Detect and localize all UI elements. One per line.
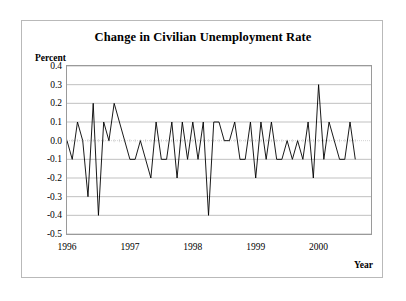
y-axis-tick-label: 0.2 (30, 98, 62, 108)
plot-wrapper: 0.40.30.20.10.0-0.1-0.2-0.3-0.4-0.5 1996… (66, 65, 372, 235)
plot-area (66, 65, 372, 235)
x-axis-tick-labels: 19961997199819992000 (66, 236, 372, 254)
x-axis-tick-label: 1999 (236, 242, 276, 252)
y-axis-tick-label: 0.0 (30, 136, 62, 146)
data-series-line (67, 85, 355, 216)
line-chart-svg (67, 66, 371, 234)
y-axis-tick-label: -0.5 (30, 229, 62, 239)
y-axis-tick-label: 0.4 (30, 61, 62, 71)
chart-title: Change in Civilian Unemployment Rate (22, 30, 384, 45)
x-axis-tick-label: 2000 (299, 242, 339, 252)
x-axis-tick-label: 1998 (173, 242, 213, 252)
chart-figure-frame: Change in Civilian Unemployment Rate Per… (21, 20, 383, 278)
y-axis-tick-label: -0.2 (30, 173, 62, 183)
x-axis-tick-label: 1996 (47, 242, 87, 252)
y-axis-tick-label: 0.1 (30, 117, 62, 127)
x-axis-tick-label: 1997 (110, 242, 150, 252)
x-axis-title: Year (354, 260, 373, 270)
y-axis-tick-label: -0.4 (30, 210, 62, 220)
y-axis-tick-label: 0.3 (30, 80, 62, 90)
y-axis-tick-labels: 0.40.30.20.10.0-0.1-0.2-0.3-0.4-0.5 (28, 65, 62, 235)
y-axis-tick-label: -0.1 (30, 154, 62, 164)
y-axis-tick-label: -0.3 (30, 192, 62, 202)
